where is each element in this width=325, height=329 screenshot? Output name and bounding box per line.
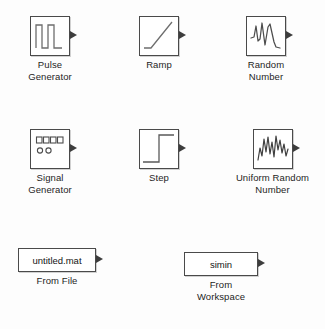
from-workspace-glyph[interactable]: simin xyxy=(184,252,258,276)
from-workspace-body[interactable]: simin xyxy=(184,252,258,276)
from-workspace-output-port[interactable] xyxy=(258,259,265,267)
uniform-random-number-label: Uniform Random Number xyxy=(236,172,309,195)
from-file-value: untitled.mat xyxy=(32,255,81,266)
block-signal-generator[interactable]: Signal Generator xyxy=(22,129,78,195)
ramp-body[interactable] xyxy=(139,16,179,56)
step-glyph[interactable] xyxy=(139,129,179,169)
step-label: Step xyxy=(149,172,169,184)
ramp-label: Ramp xyxy=(146,59,172,71)
uniform-random-number-body[interactable] xyxy=(253,129,293,169)
from-file-output-port[interactable] xyxy=(96,255,103,263)
step-body[interactable] xyxy=(139,129,179,169)
block-from-workspace[interactable]: simin From Workspace xyxy=(180,252,262,302)
from-workspace-value: simin xyxy=(210,259,232,270)
random-number-label: Random Number xyxy=(248,59,285,82)
block-from-file[interactable]: untitled.mat From File xyxy=(14,248,100,287)
random-waveform-icon xyxy=(247,17,285,55)
from-file-label: From File xyxy=(36,275,77,287)
signal-generator-panel-icon xyxy=(31,130,69,168)
pulse-generator-body[interactable] xyxy=(30,16,70,56)
block-ramp[interactable]: Ramp xyxy=(131,16,187,71)
from-workspace-label: From Workspace xyxy=(197,279,245,302)
pulse-generator-label: Pulse Generator xyxy=(28,59,72,82)
step-waveform-icon xyxy=(140,130,178,168)
from-file-body[interactable]: untitled.mat xyxy=(18,248,96,272)
pulse-generator-output-port[interactable] xyxy=(70,31,77,39)
random-number-body[interactable] xyxy=(246,16,286,56)
uniform-random-number-output-port[interactable] xyxy=(293,144,300,152)
from-file-glyph[interactable]: untitled.mat xyxy=(18,248,96,272)
uniform-random-waveform-icon xyxy=(254,130,292,168)
random-number-output-port[interactable] xyxy=(286,31,293,39)
signal-generator-body[interactable] xyxy=(30,129,70,169)
block-random-number[interactable]: Random Number xyxy=(235,16,297,82)
block-uniform-random-number[interactable]: Uniform Random Number xyxy=(225,129,320,195)
block-pulse-generator[interactable]: Pulse Generator xyxy=(22,16,78,82)
simulink-sources-palette: Pulse Generator Ramp Random Number xyxy=(0,0,325,329)
ramp-glyph[interactable] xyxy=(139,16,179,56)
step-output-port[interactable] xyxy=(179,144,186,152)
uniform-random-number-glyph[interactable] xyxy=(253,129,293,169)
pulse-waveform-icon xyxy=(31,17,69,55)
ramp-output-port[interactable] xyxy=(179,31,186,39)
ramp-waveform-icon xyxy=(140,17,178,55)
pulse-generator-glyph[interactable] xyxy=(30,16,70,56)
random-number-glyph[interactable] xyxy=(246,16,286,56)
signal-generator-output-port[interactable] xyxy=(70,144,77,152)
signal-generator-glyph[interactable] xyxy=(30,129,70,169)
block-step[interactable]: Step xyxy=(131,129,187,184)
signal-generator-label: Signal Generator xyxy=(28,172,72,195)
